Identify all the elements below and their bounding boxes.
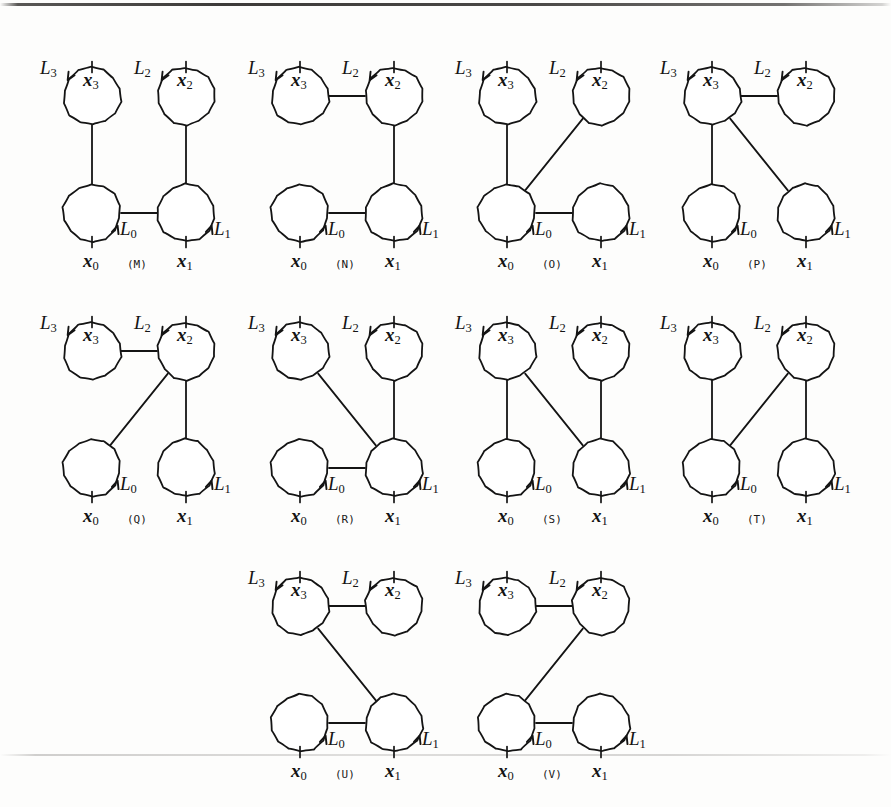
node-label-x3-sub: 3 — [508, 78, 514, 92]
node-label-x2: x2 — [797, 70, 813, 89]
edge-label-L3-sub: 3 — [671, 66, 677, 80]
loop-circle-x0 — [271, 694, 328, 752]
node-label-x3: x3 — [291, 325, 307, 344]
scan-artifact-top-line — [0, 3, 891, 6]
node-label-x2-base: x — [797, 324, 807, 345]
node-label-x0-base: x — [291, 250, 301, 271]
edge-label-L0: L0 — [120, 219, 137, 238]
node-label-x1-base: x — [797, 505, 807, 526]
node-label-x1-sub: 1 — [187, 259, 193, 273]
node-label-x3-base: x — [291, 69, 301, 90]
edge-x3-x1-diagonal — [730, 119, 788, 191]
edge-label-L1: L1 — [629, 474, 646, 493]
node-label-x2-sub: 2 — [395, 333, 401, 347]
edge-label-L3: L3 — [455, 58, 472, 77]
node-label-x2-base: x — [592, 324, 602, 345]
node-label-x0-sub: 0 — [301, 514, 307, 528]
edge-label-L0: L0 — [328, 219, 345, 238]
graph-diagram-n: x3x2x0x1L3L2L0L1(N) — [248, 36, 458, 286]
node-label-x0-sub: 0 — [508, 259, 514, 273]
edge-label-L0-base: L — [740, 218, 751, 239]
node-label-x2-base: x — [385, 69, 395, 90]
node-label-x0: x0 — [703, 251, 719, 270]
edge-label-L2-base: L — [754, 312, 765, 333]
edge-label-L0-sub: 0 — [131, 482, 137, 496]
node-label-x0-sub: 0 — [301, 769, 307, 783]
edge-label-L1-sub: 1 — [640, 482, 646, 496]
edge-label-L1: L1 — [214, 219, 231, 238]
edge-label-L1-sub: 1 — [640, 227, 646, 241]
edge-label-L1-sub: 1 — [433, 737, 439, 751]
graph-diagram-p: x3x2x0x1L3L2L0L1(P) — [660, 36, 870, 286]
edge-label-L0-sub: 0 — [339, 227, 345, 241]
node-label-x0-base: x — [498, 250, 508, 271]
node-label-x2-sub: 2 — [602, 588, 608, 602]
edge-label-L1: L1 — [629, 729, 646, 748]
node-label-x1-base: x — [797, 250, 807, 271]
node-label-x0-sub: 0 — [93, 259, 99, 273]
edge-label-L0-base: L — [328, 728, 339, 749]
node-label-x3-sub: 3 — [301, 333, 307, 347]
edge-label-L0-base: L — [740, 473, 751, 494]
node-label-x2-base: x — [177, 69, 187, 90]
node-label-x0: x0 — [83, 251, 99, 270]
node-label-x3-sub: 3 — [93, 333, 99, 347]
edge-x3-x1-diagonal — [525, 374, 583, 446]
edge-label-L2-base: L — [549, 57, 560, 78]
edge-label-L3: L3 — [660, 58, 677, 77]
node-label-x1: x1 — [592, 251, 608, 270]
edge-label-L2-sub: 2 — [560, 576, 566, 590]
node-label-x0: x0 — [291, 761, 307, 780]
node-label-x1: x1 — [797, 506, 813, 525]
edge-label-L0-base: L — [535, 728, 546, 749]
graph-diagram-r: x3x2x0x1L3L2L0L1(R) — [248, 291, 458, 541]
node-label-x0-base: x — [703, 250, 713, 271]
edge-label-L3-base: L — [248, 312, 259, 333]
node-label-x1-sub: 1 — [395, 769, 401, 783]
node-label-x1: x1 — [592, 761, 608, 780]
node-label-x2: x2 — [592, 70, 608, 89]
edge-label-L3-sub: 3 — [259, 66, 265, 80]
edge-label-L3: L3 — [660, 313, 677, 332]
node-label-x0-sub: 0 — [713, 259, 719, 273]
edge-label-L1: L1 — [214, 474, 231, 493]
node-label-x0: x0 — [83, 506, 99, 525]
loop-circle-x0 — [270, 184, 327, 242]
node-label-x1-sub: 1 — [395, 514, 401, 528]
node-label-x1-base: x — [385, 250, 395, 271]
node-label-x2: x2 — [385, 325, 401, 344]
graph-diagram-t: x3x2x0x1L3L2L0L1(T) — [660, 291, 870, 541]
edge-label-L2-base: L — [342, 567, 353, 588]
edge-label-L3-base: L — [455, 567, 466, 588]
loop-circle-x0 — [478, 439, 535, 497]
node-label-x0-base: x — [498, 505, 508, 526]
edge-label-L3: L3 — [248, 568, 265, 587]
node-label-x3: x3 — [703, 70, 719, 89]
node-label-x3-base: x — [498, 324, 508, 345]
node-label-x3-base: x — [291, 579, 301, 600]
node-label-x1-sub: 1 — [807, 514, 813, 528]
edge-label-L0: L0 — [535, 729, 552, 748]
node-label-x1-sub: 1 — [602, 514, 608, 528]
edge-label-L2: L2 — [342, 58, 359, 77]
node-label-x2-sub: 2 — [807, 333, 813, 347]
edge-label-L1-base: L — [834, 218, 845, 239]
edge-label-L2-base: L — [754, 57, 765, 78]
node-label-x1-sub: 1 — [187, 514, 193, 528]
node-label-x1-base: x — [592, 760, 602, 781]
node-label-x1-base: x — [177, 250, 187, 271]
node-label-x3-sub: 3 — [93, 78, 99, 92]
edge-label-L1: L1 — [834, 219, 851, 238]
edge-label-L2-sub: 2 — [765, 321, 771, 335]
edge-label-L2-sub: 2 — [145, 66, 151, 80]
loop-circle-x0 — [62, 185, 120, 243]
loop-circle-x0 — [62, 439, 119, 497]
edge-label-L3: L3 — [40, 313, 57, 332]
node-label-x2: x2 — [592, 325, 608, 344]
edge-label-L2-sub: 2 — [353, 66, 359, 80]
node-label-x1-base: x — [385, 760, 395, 781]
node-label-x0-base: x — [703, 505, 713, 526]
edge-label-L1-sub: 1 — [640, 737, 646, 751]
edge-x2-x0-diagonal — [525, 629, 583, 701]
node-label-x2-base: x — [797, 69, 807, 90]
